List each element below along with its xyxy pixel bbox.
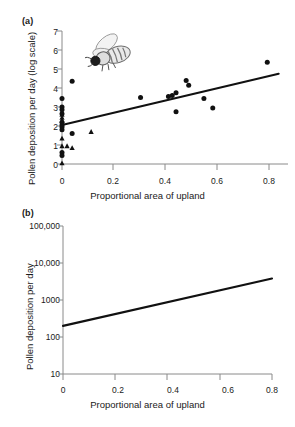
data-point-circle [60,153,65,158]
bee-illustration-icon [83,31,137,77]
panel-b-y-ticks [58,226,63,374]
data-point-circle [174,109,179,114]
data-point-circle [265,60,270,65]
data-point-circle [184,78,189,83]
data-point-circle [201,96,206,101]
panel-a-x-ticks [62,164,269,170]
panel-b: (b) Pollen deposition per day 100,000 10… [0,205,295,427]
data-point-circle [174,90,179,95]
panel-b-trendline [63,279,272,326]
data-point-circle [210,105,215,110]
data-point-circle [186,83,191,88]
data-point-circle [70,79,75,84]
panel-a-plot [0,0,295,212]
panel-a: (a) Pollen deposition per day (log scale… [0,0,295,212]
panel-b-plot [0,205,295,427]
data-point-circle [60,96,65,101]
data-point-triangle [89,129,94,134]
data-point-triangle [64,143,69,148]
data-point-circle [138,95,143,100]
data-point-triangle [59,160,64,165]
data-point-circle [60,127,65,132]
data-point-triangle [59,136,64,141]
figure-container: (a) Pollen deposition per day (log scale… [0,0,295,427]
data-point-triangle [59,143,64,148]
data-point-triangle [70,145,75,150]
panel-b-x-ticks [63,374,272,380]
panel-a-trendline [62,74,279,125]
data-point-circle [70,131,75,136]
